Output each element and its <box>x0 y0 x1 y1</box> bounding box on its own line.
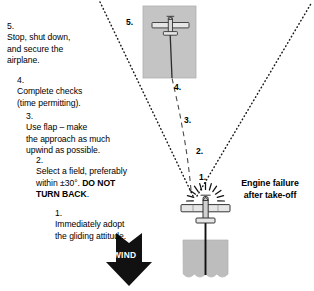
step-1-text: Immediately adopt the gliding attitude. <box>55 219 126 240</box>
step-1-note: 1. Immediately adopt the gliding attitud… <box>55 197 175 242</box>
path-marker-2-label: 2. <box>196 146 203 156</box>
step-5-note: 5. Stop, shut down, and secure the airpl… <box>7 10 119 66</box>
path-marker-3-label: 3. <box>184 115 191 125</box>
step-2-number: 2. <box>36 155 43 165</box>
step-5-number: 5. <box>7 21 14 31</box>
step-5-text: Stop, shut down, and secure the airplane… <box>7 32 70 64</box>
engine-failure-callout: Engine failure after take-off <box>228 178 312 201</box>
step-3-number: 3. <box>26 111 33 121</box>
path-marker-4: 4. <box>174 82 181 92</box>
path-marker-5-label: 5. <box>126 17 133 27</box>
callout-line-1: Engine failure <box>228 178 312 190</box>
path-marker-2: 2. <box>196 146 203 156</box>
path-marker-1: 1. <box>199 172 206 182</box>
callout-line-2: after take-off <box>228 190 312 202</box>
path-marker-4-label: 4. <box>174 82 181 92</box>
path-marker-5: 5. <box>126 17 133 27</box>
path-marker-3: 3. <box>184 115 191 125</box>
step-1-number: 1. <box>55 208 62 218</box>
wind-label: WIND <box>113 250 136 260</box>
cone-boundary-right-dotted <box>197 2 312 196</box>
airplane-engine-failure <box>181 195 230 223</box>
step-2-note: 2. Select a field, preferably within ±30… <box>36 144 162 200</box>
path-marker-1-label: 1. <box>199 172 206 182</box>
step-4-number: 4. <box>17 75 24 85</box>
wind-label-text: WIND <box>113 250 136 260</box>
diagram-canvas: 5. Stop, shut down, and secure the airpl… <box>0 0 314 291</box>
